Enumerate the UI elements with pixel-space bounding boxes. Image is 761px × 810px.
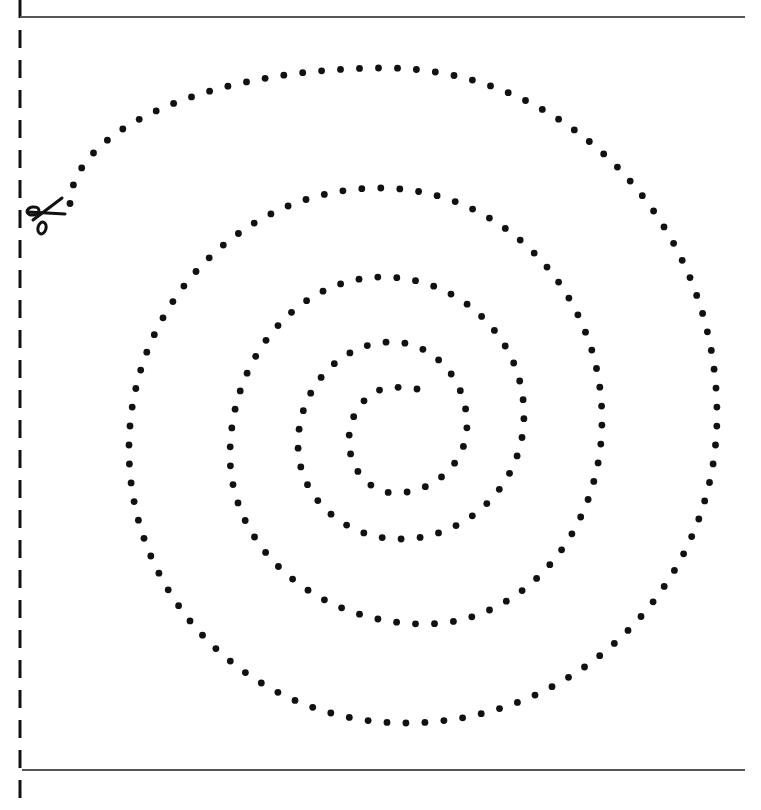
cut-out-worksheet (0, 0, 761, 810)
spiral-dot (141, 535, 148, 542)
spiral-dot (227, 443, 234, 450)
spiral-dot (452, 198, 459, 205)
spiral-dot (671, 567, 678, 574)
spiral-dot (361, 397, 368, 404)
spiral-dot (519, 587, 526, 594)
spiral-dot (225, 83, 232, 90)
spiral-dot (586, 138, 593, 145)
spiral-dot (469, 77, 476, 84)
spiral-dot (237, 388, 244, 395)
spiral-dot (546, 561, 553, 568)
spiral-dot (170, 298, 177, 305)
spiral-dot (414, 386, 421, 393)
spiral-dot (575, 311, 582, 318)
spiral-dot (295, 445, 302, 452)
spiral-dot (491, 327, 498, 334)
spiral-dot (303, 196, 310, 203)
spiral-dot (90, 150, 97, 157)
dotted-spiral-cut-path (67, 65, 721, 727)
spiral-dot (450, 618, 457, 625)
spiral-dot (595, 460, 602, 467)
spiral-dot (275, 563, 282, 570)
spiral-dot (358, 185, 365, 192)
spiral-dot (360, 530, 367, 537)
spiral-dot (403, 720, 410, 727)
spiral-dot (533, 575, 540, 582)
spiral-dot (661, 224, 668, 231)
spiral-dot (453, 522, 460, 529)
spiral-dot (243, 79, 250, 86)
spiral-dot (469, 512, 476, 519)
spiral-dot (296, 426, 303, 433)
spiral-dot (451, 72, 458, 79)
spiral-dot (280, 72, 287, 79)
spiral-dot (415, 188, 422, 195)
spiral-dot (126, 442, 133, 449)
spiral-dot (314, 497, 321, 504)
spiral-dot (398, 536, 405, 543)
spiral-dot (206, 254, 213, 261)
spiral-dot (714, 404, 721, 411)
spiral-dot (318, 67, 325, 74)
spiral-dot (268, 211, 275, 218)
spiral-dot (383, 339, 390, 346)
spiral-dot (412, 620, 419, 627)
spiral-dot (242, 517, 249, 524)
spiral-dot (706, 479, 713, 486)
spiral-dot (384, 719, 391, 726)
spiral-dot (713, 385, 720, 392)
spiral-dot (304, 481, 311, 488)
spiral-dot (346, 714, 353, 721)
spiral-dot (599, 422, 606, 429)
spiral-dot (614, 164, 621, 171)
spiral-dot (432, 69, 439, 76)
spiral-dot (364, 342, 371, 349)
spiral-dot (220, 242, 227, 249)
spiral-dot (505, 89, 512, 96)
spiral-dot (374, 274, 381, 281)
spiral-dot (235, 230, 242, 237)
spiral-dot (156, 570, 163, 577)
spiral-dot (459, 714, 466, 721)
spiral-dot (597, 441, 604, 448)
spiral-dot (170, 100, 177, 107)
spiral-dot (464, 424, 471, 431)
spiral-dot (539, 106, 546, 113)
spiral-dot (252, 353, 259, 360)
spiral-dot (147, 553, 154, 560)
spiral-dot (78, 165, 85, 172)
spiral-dot (232, 406, 239, 413)
spiral-dot (581, 664, 588, 671)
spiral-dot (502, 343, 509, 350)
spiral-dot (206, 88, 213, 95)
spiral-dot (350, 413, 357, 420)
spiral-dot (625, 627, 632, 634)
spiral-dot (343, 522, 350, 529)
spiral-dot (585, 496, 592, 503)
spiral-dot (320, 288, 327, 295)
spiral-dot (104, 137, 111, 144)
spiral-dot (340, 187, 347, 194)
spiral-dot (331, 360, 338, 367)
spiral-dot (503, 598, 510, 605)
spiral-dot (385, 489, 392, 496)
spiral-dot (289, 576, 296, 583)
spiral-dot (299, 69, 306, 76)
spiral-dot (119, 126, 126, 133)
spiral-dot (596, 384, 603, 391)
spiral-dot (468, 613, 475, 620)
spiral-dot (713, 423, 720, 430)
spiral-dot (661, 583, 668, 590)
spiral-dot (303, 297, 310, 304)
spiral-dot (514, 453, 521, 460)
spiral-dot (213, 645, 220, 652)
spiral-dot (337, 281, 344, 288)
spiral-dot (128, 480, 135, 487)
spiral-dot (596, 652, 603, 659)
spiral-dot (710, 461, 717, 468)
spiral-dot (502, 225, 509, 232)
spiral-dot (135, 517, 142, 524)
spiral-dot (438, 474, 445, 481)
spiral-dot (228, 425, 235, 432)
spiral-dot (165, 586, 172, 593)
